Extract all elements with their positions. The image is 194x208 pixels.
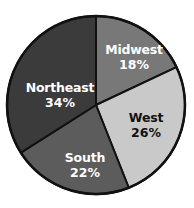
- pie-label-west: West: [129, 110, 164, 125]
- pie-chart-canvas: Midwest 18% West 26% South 22% Northeast…: [0, 0, 194, 208]
- pie-value-midwest: 18%: [119, 57, 149, 72]
- pie-value-south: 22%: [70, 165, 100, 180]
- pie-label-midwest: Midwest: [105, 42, 163, 57]
- pie-chart-figure: Midwest 18% West 26% South 22% Northeast…: [0, 0, 194, 208]
- pie-label-northeast: Northeast: [26, 80, 95, 95]
- pie-label-south: South: [65, 150, 105, 165]
- pie-value-west: 26%: [131, 125, 161, 140]
- pie-value-northeast: 34%: [45, 95, 75, 110]
